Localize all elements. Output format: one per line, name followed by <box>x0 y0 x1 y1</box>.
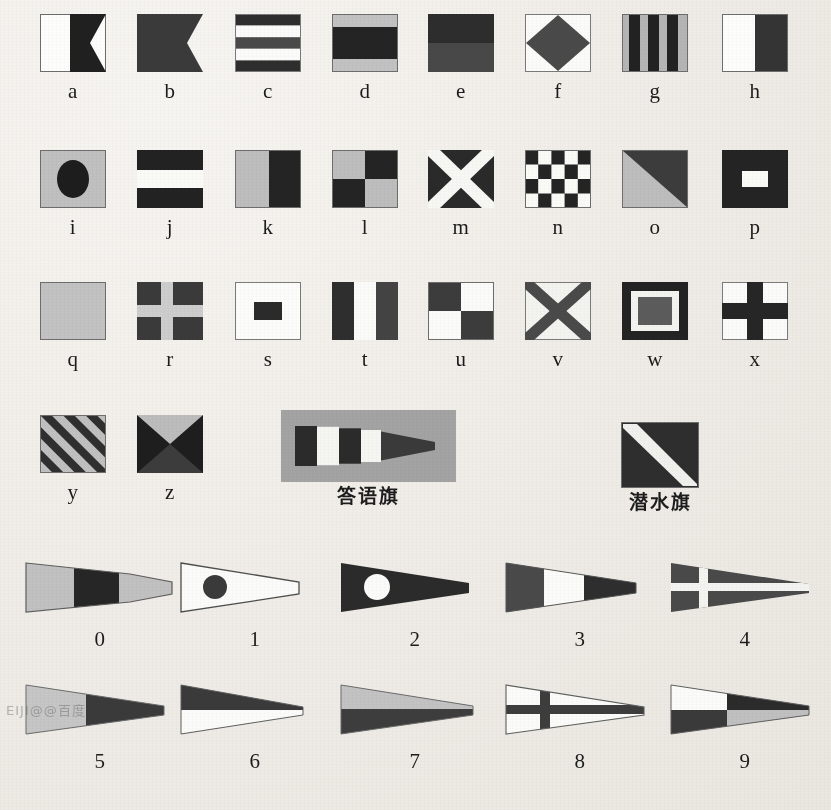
flag-v-icon <box>525 282 591 340</box>
flag-y-icon <box>40 415 106 473</box>
numerals-row-2: 5 6 <box>0 682 831 787</box>
flag-o-icon <box>622 150 688 208</box>
flag-i-icon <box>40 150 106 208</box>
pennant-cell-1[interactable]: 1 <box>175 560 335 650</box>
flag-label-diver: 潜水旗 <box>570 493 750 512</box>
pennant-cell-0[interactable]: 0 <box>20 560 180 650</box>
pennant-label-3: 3 <box>500 629 660 650</box>
flag-k-icon <box>235 150 301 208</box>
flag-s-icon <box>235 282 301 340</box>
letters-row-4: y z <box>0 415 831 540</box>
pennant-2-icon <box>339 560 491 615</box>
pennant-label-6: 6 <box>175 751 335 772</box>
flag-m-icon <box>428 150 494 208</box>
flag-cell-x[interactable]: x <box>690 282 820 370</box>
flag-a-icon <box>40 14 106 72</box>
pennant-7-icon <box>339 682 491 737</box>
pennant-6-icon <box>179 682 331 737</box>
flag-r-icon <box>137 282 203 340</box>
flag-j-icon <box>137 150 203 208</box>
numerals-row-1: 0 1 2 <box>0 560 831 665</box>
diver-flag-icon <box>621 422 699 488</box>
flag-p-icon <box>722 150 788 208</box>
pennant-label-5: 5 <box>20 751 180 772</box>
flag-c-icon <box>235 14 301 72</box>
pennant-label-0: 0 <box>20 629 180 650</box>
pennant-8-icon <box>504 682 656 737</box>
flag-z-icon <box>137 415 203 473</box>
flag-label-z: z <box>105 482 235 503</box>
flag-w-icon <box>622 282 688 340</box>
flag-cell-diver[interactable]: 潜水旗 <box>570 422 750 512</box>
flag-label-p: p <box>690 217 820 238</box>
pennant-3-icon <box>504 560 656 615</box>
flag-cell-answering-pennant[interactable]: 答语旗 <box>278 410 458 506</box>
flag-e-icon <box>428 14 494 72</box>
flag-x-icon <box>722 282 788 340</box>
chart-sheet: a b c <box>0 0 831 810</box>
pennant-cell-2[interactable]: 2 <box>335 560 495 650</box>
pennant-cell-9[interactable]: 9 <box>665 682 825 772</box>
answering-pennant-icon <box>281 410 456 482</box>
watermark: EIJI@@百度 <box>6 700 86 719</box>
flag-cell-p[interactable]: p <box>690 150 820 238</box>
letters-row-1: a b c <box>0 14 831 134</box>
pennant-label-8: 8 <box>500 751 660 772</box>
flag-cell-h[interactable]: h <box>690 14 820 102</box>
pennant-label-7: 7 <box>335 751 495 772</box>
flag-b-icon <box>137 14 203 72</box>
flag-label-h: h <box>690 81 820 102</box>
flag-label-x: x <box>690 349 820 370</box>
flag-f-icon <box>525 14 591 72</box>
flag-cell-z[interactable]: z <box>105 415 235 503</box>
pennant-cell-8[interactable]: 8 <box>500 682 660 772</box>
pennant-label-2: 2 <box>335 629 495 650</box>
pennant-label-1: 1 <box>175 629 335 650</box>
flag-u-icon <box>428 282 494 340</box>
pennant-4-icon <box>669 560 821 615</box>
flag-l-icon <box>332 150 398 208</box>
flag-label-answering-pennant: 答语旗 <box>278 487 458 506</box>
pennant-0-icon <box>24 560 176 615</box>
pennant-label-4: 4 <box>665 629 825 650</box>
pennant-9-icon <box>669 682 821 737</box>
flag-t-icon <box>332 282 398 340</box>
flag-h-icon <box>722 14 788 72</box>
pennant-cell-4[interactable]: 4 <box>665 560 825 650</box>
pennant-cell-3[interactable]: 3 <box>500 560 660 650</box>
pennant-cell-7[interactable]: 7 <box>335 682 495 772</box>
pennant-cell-6[interactable]: 6 <box>175 682 335 772</box>
flag-g-icon <box>622 14 688 72</box>
flag-n-icon <box>525 150 591 208</box>
flag-q-icon <box>40 282 106 340</box>
letters-row-3: q r s <box>0 282 831 402</box>
letters-row-2: i j k <box>0 150 831 270</box>
pennant-1-icon <box>179 560 331 615</box>
pennant-label-9: 9 <box>665 751 825 772</box>
flag-d-icon <box>332 14 398 72</box>
pennant-cell-5[interactable]: 5 <box>20 682 180 772</box>
